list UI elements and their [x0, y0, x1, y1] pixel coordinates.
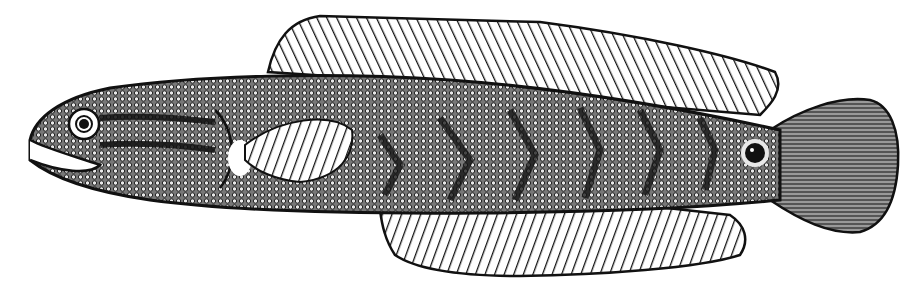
- ocellus-spot: [741, 139, 769, 167]
- fish-drawing: [0, 0, 918, 293]
- anal-fin: [380, 205, 745, 276]
- caudal-fin: [770, 99, 898, 232]
- eye: [69, 109, 99, 139]
- fish-illustration: Engraved illustration of a snakehead fis…: [0, 0, 918, 293]
